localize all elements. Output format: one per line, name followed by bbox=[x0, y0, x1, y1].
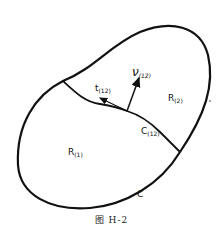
normal-vector-label: ν(12) bbox=[132, 66, 151, 79]
normal-vector-arrow bbox=[127, 78, 139, 111]
outer-boundary-curve bbox=[18, 26, 210, 208]
diagram-canvas bbox=[0, 0, 223, 234]
stray-dot bbox=[209, 100, 211, 102]
interface-curve bbox=[63, 81, 180, 152]
region-r2-label: R(2) bbox=[168, 94, 183, 104]
figure-caption: 图 H-2 bbox=[0, 213, 223, 226]
interface-curve-label: C(12) bbox=[141, 127, 160, 137]
outer-curve-label: C bbox=[137, 190, 143, 199]
region-r1-label: R(1) bbox=[68, 148, 83, 158]
tangent-vector-label: t(12) bbox=[95, 84, 111, 94]
